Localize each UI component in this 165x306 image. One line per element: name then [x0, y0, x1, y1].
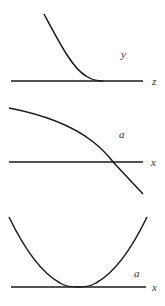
panel-1-curve [44, 14, 103, 81]
panel-2-axis-label: x [150, 156, 156, 168]
panel-3-axis-label: x [151, 281, 157, 293]
panel-2-curve [9, 108, 143, 194]
diagram-canvas: y z a x a x [0, 0, 165, 306]
panel-1-curve-label: y [120, 48, 126, 60]
panel-3: a x [9, 217, 157, 293]
panel-1-axis-label: z [151, 75, 157, 87]
panel-2: a x [9, 108, 156, 194]
panel-3-curve [9, 217, 147, 287]
panel-1: y z [11, 14, 157, 87]
panel-2-curve-label: a [119, 128, 125, 140]
panel-3-curve-label: a [134, 267, 140, 279]
